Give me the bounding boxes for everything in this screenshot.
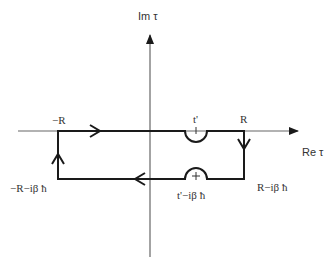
r-minus-ibh-label: R−iβ ħ [257, 181, 288, 193]
minus-r-minus-ibh-label: −R−iβ ħ [10, 182, 47, 194]
imaginary-axis-label: Im τ [138, 10, 158, 22]
integration-contour [58, 131, 244, 179]
r-label: R [240, 113, 248, 125]
t-prime-minus-ibh-label: t'−iβ ħ [177, 189, 206, 201]
minus-r-label: −R [52, 114, 66, 126]
real-axis-label: Re τ [302, 146, 324, 158]
contour-diagram: Im τ Re τ −R R t' −R−iβ ħ R−iβ ħ t'−iβ ħ [0, 0, 335, 269]
t-prime-label: t' [193, 113, 198, 125]
